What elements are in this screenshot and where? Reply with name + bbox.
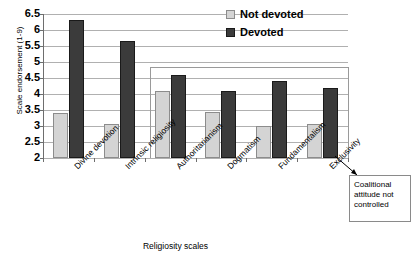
legend: Not devoted Devoted — [226, 6, 356, 42]
gridline — [43, 46, 348, 47]
callout-annotation-text: Coalitionalattitude notcontrolled — [354, 180, 407, 210]
y-axis-tick-label: 5 — [2, 56, 40, 67]
y-axis-tickmark — [40, 78, 44, 79]
legend-label-devoted: Devoted — [240, 26, 283, 38]
bar — [120, 41, 135, 158]
y-axis-tick-label: 3 — [2, 120, 40, 131]
y-axis-tick-label: 4.5 — [2, 72, 40, 83]
x-axis-tickmark — [297, 158, 298, 162]
legend-item-not-devoted: Not devoted — [226, 6, 356, 22]
x-axis-tickmark — [94, 158, 95, 162]
y-axis-tick-label: 5.5 — [2, 40, 40, 51]
y-axis-tick-label: 4 — [2, 88, 40, 99]
callout-line: attitude not — [354, 190, 407, 200]
y-axis-tick-label: 2 — [2, 152, 40, 163]
x-axis-tickmark — [246, 158, 247, 162]
y-axis-tickmark — [40, 46, 44, 47]
legend-label-not-devoted: Not devoted — [240, 8, 304, 20]
y-axis-tickmark — [40, 110, 44, 111]
y-axis-tickmark — [40, 62, 44, 63]
y-axis-tickmark — [40, 94, 44, 95]
y-axis-tick-label: 3.5 — [2, 104, 40, 115]
x-axis-tickmark — [43, 158, 44, 162]
y-axis-tick-label: 2.5 — [2, 136, 40, 147]
y-axis-tickmark — [40, 14, 44, 15]
y-axis-tick-label: 6 — [2, 24, 40, 35]
y-axis-tickmark — [40, 142, 44, 143]
x-axis-tickmark — [196, 158, 197, 162]
x-axis-title: Religiosity scales — [0, 241, 415, 251]
y-axis-tick-labels: 6.565.554.543.532.52 — [2, 8, 40, 164]
x-axis-title-text: Religiosity scales — [143, 241, 208, 251]
legend-item-devoted: Devoted — [226, 24, 356, 40]
gridline — [43, 62, 348, 63]
y-axis-line — [43, 14, 44, 159]
y-axis-tick-label: 6.5 — [2, 8, 40, 19]
y-axis-tickmark — [40, 126, 44, 127]
bar — [53, 113, 68, 158]
bar-chart: Scale endorsement (1-9) 6.565.554.543.53… — [0, 0, 415, 261]
legend-swatch-icon-devoted — [226, 28, 235, 37]
callout-line: Coalitional — [354, 180, 407, 190]
y-axis-tickmark — [40, 30, 44, 31]
bar — [69, 20, 84, 158]
x-axis-tickmark — [145, 158, 146, 162]
legend-swatch-icon-not-devoted — [226, 10, 235, 19]
callout-annotation-box: Coalitionalattitude notcontrolled — [349, 175, 411, 222]
callout-line: controlled — [354, 200, 407, 210]
